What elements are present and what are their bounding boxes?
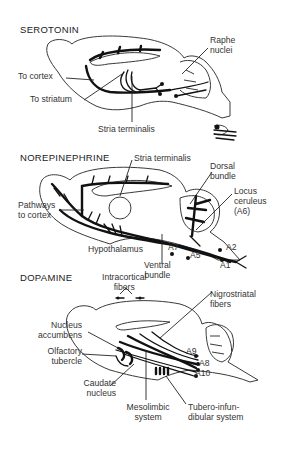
label-raphe-nuclei: Raphe nuclei xyxy=(210,35,235,55)
label-mesolimbic-system: Mesolimbic system xyxy=(116,402,180,422)
norepinephrine-panel: NOREPINEPHRINE Stria terminalis Dorsal b… xyxy=(0,150,282,270)
label-caudate-nucleus: Caudate nucleus xyxy=(60,378,116,398)
label-a8: A8 xyxy=(199,358,210,368)
label-a1: A1 xyxy=(220,260,231,270)
label-nigrostriatal-fibers: Nigrostriatal fibers xyxy=(210,289,256,309)
label-to-striatum: To striatum xyxy=(30,94,72,104)
dopamine-title: DOPAMINE xyxy=(20,272,72,283)
dopamine-panel: DOPAMINE Intracortical fibers Nigrostria… xyxy=(0,270,282,454)
norepinephrine-title: NOREPINEPHRINE xyxy=(20,152,110,163)
label-stria-terminalis: Stria terminalis xyxy=(98,124,155,134)
label-a7: A7 xyxy=(168,242,179,252)
serotonin-panel: SEROTONIN Raphe nuclei To cortex To stri… xyxy=(0,0,282,150)
label-olfactory-tubercle: Olfactory tubercle xyxy=(20,346,82,366)
serotonin-title: SEROTONIN xyxy=(20,24,79,35)
label-locus-ceruleus: Locus ceruleus (A6) xyxy=(234,186,266,216)
label-a10: A10 xyxy=(195,368,210,378)
label-hypothalamus: Hypothalamus xyxy=(88,244,143,254)
label-nucleus-accumbens: Nucleus accumbens xyxy=(16,320,82,340)
label-tubero-infundibular-system: Tubero-infun- dibular system xyxy=(188,402,243,422)
label-to-cortex: To cortex xyxy=(18,71,53,81)
label-pathways-to-cortex: Pathways to cortex xyxy=(18,200,55,220)
label-a5: A5 xyxy=(190,250,201,260)
label-stria-terminalis: Stria terminalis xyxy=(134,153,191,163)
label-a9: A9 xyxy=(186,346,197,356)
label-dorsal-bundle: Dorsal bundle xyxy=(210,161,236,181)
label-a2: A2 xyxy=(226,242,237,252)
label-intracortical-fibers: Intracortical fibers xyxy=(102,272,146,292)
